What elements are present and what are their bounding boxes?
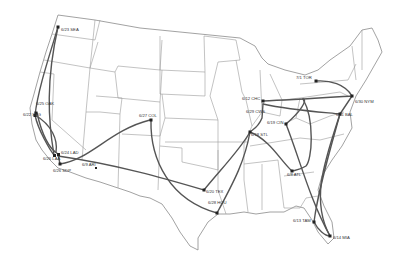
stop-marker-chc <box>262 100 265 103</box>
stop-marker-hou <box>216 212 219 215</box>
stop-label-hou: 6/28 HOU <box>208 200 227 205</box>
stop-marker-ari <box>95 167 97 169</box>
stop-marker-sdp <box>59 163 62 166</box>
stop-marker-cin <box>285 123 288 126</box>
stop-label-laa: 6/26 LAA <box>43 156 60 161</box>
stop-label-tex: 6/20 TEX <box>206 189 224 194</box>
stop-label-chc: 6/12 CHC <box>242 96 260 101</box>
stop-label-sfg: 6/22 SFG <box>23 112 41 117</box>
stop-label-bal: 6/11 BAL <box>336 112 354 117</box>
stop-marker-nym <box>351 95 354 98</box>
stop-label-atl: 6/8 ATL <box>287 172 302 177</box>
us-outline <box>30 15 382 250</box>
stop-label-cin: 6/19 CIN <box>267 120 284 125</box>
stop-label-oak: 6/25 OAK <box>36 101 54 106</box>
stop-label-tam: 6/13 TAM <box>293 218 311 223</box>
stop-marker-mia <box>329 235 332 238</box>
stop-label-tor: 7/1 TOR <box>296 75 312 80</box>
stop-label-ari: 6/9 ARI <box>82 162 96 167</box>
us-route-map: 6/23 SEA 6/25 OAK 6/22 SFG 6/24 LAD 6/26… <box>0 0 401 266</box>
stop-label-sdp: 6/26 SDP <box>53 168 71 173</box>
stop-label-stl: 6/18 STL <box>251 132 269 137</box>
stop-label-col: 6/27 COL <box>139 113 158 118</box>
stop-marker-tor <box>315 80 318 83</box>
stop-marker-tam <box>313 221 316 224</box>
stop-label-mia: 6/14 MIA <box>333 235 350 240</box>
stop-marker-sea <box>57 26 60 29</box>
stop-label-nym: 6/30 NYM <box>355 99 374 104</box>
stop-marker-col <box>150 119 153 122</box>
stop-label-lad: 6/24 LAD <box>61 150 78 155</box>
stop-label-cws: 6/29 CWS <box>246 109 265 114</box>
stop-label-sea: 6/23 SEA <box>61 27 79 32</box>
